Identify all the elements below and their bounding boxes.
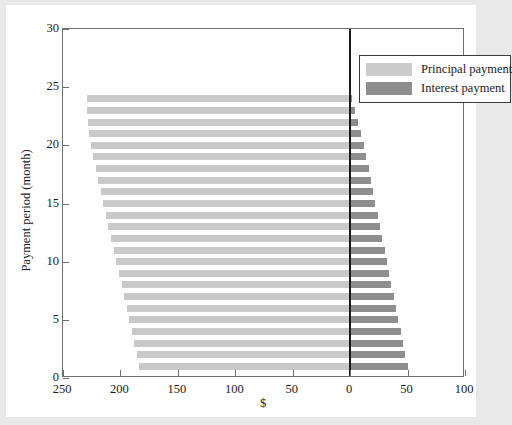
x-tick — [408, 370, 409, 376]
bar-principal — [98, 177, 350, 184]
bar-interest — [350, 119, 358, 126]
x-axis-title: $ — [62, 396, 464, 411]
bar-interest — [350, 247, 384, 254]
x-tick — [293, 370, 294, 376]
legend-label-interest: Interest payment — [421, 81, 505, 96]
x-tick-label: 0 — [346, 382, 352, 397]
y-tick-label: 0 — [53, 370, 59, 385]
legend-swatch-principal — [366, 63, 412, 76]
y-tick-label: 20 — [47, 137, 60, 152]
y-tick-label: 15 — [47, 195, 60, 210]
y-tick — [63, 262, 69, 263]
bar-principal — [87, 107, 350, 114]
y-tick-label: 25 — [47, 79, 60, 94]
bar-interest — [350, 305, 396, 312]
y-tick-label: 5 — [53, 311, 59, 326]
bar-interest — [350, 153, 366, 160]
bar-interest — [350, 142, 364, 149]
bar-principal — [96, 165, 350, 172]
legend-swatch-interest — [366, 82, 412, 95]
x-tick — [63, 370, 64, 376]
legend-item-interest[interactable]: Interest payment — [366, 80, 504, 97]
bar-interest — [350, 212, 378, 219]
bar-interest — [350, 200, 375, 207]
x-tick — [178, 370, 179, 376]
bar-interest — [350, 130, 361, 137]
bar-principal — [101, 188, 350, 195]
bar-principal — [111, 235, 350, 242]
y-tick — [63, 29, 69, 30]
x-tick-label: 50 — [285, 382, 298, 397]
y-tick-label: 10 — [47, 253, 60, 268]
y-tick-label: 30 — [47, 21, 60, 36]
zero-axis-line — [349, 29, 351, 376]
bar-principal — [134, 340, 350, 347]
bar-principal — [122, 281, 351, 288]
bar-interest — [350, 340, 403, 347]
y-tick — [63, 204, 69, 205]
x-tick — [120, 370, 121, 376]
chart-legend[interactable]: Principal payment Interest payment — [359, 55, 511, 103]
bar-principal — [103, 200, 350, 207]
x-tick — [465, 370, 466, 376]
x-tick-label: 200 — [110, 382, 129, 397]
bar-interest — [350, 328, 401, 335]
bar-interest — [350, 363, 407, 370]
bar-principal — [108, 223, 350, 230]
bar-principal — [114, 247, 351, 254]
legend-label-principal: Principal payment — [421, 62, 512, 77]
x-tick-label: 100 — [225, 382, 244, 397]
bar-principal — [116, 258, 350, 265]
y-tick — [63, 378, 69, 379]
bar-principal — [124, 293, 350, 300]
bar-interest — [350, 223, 380, 230]
bar-interest — [350, 188, 373, 195]
bar-interest — [350, 281, 391, 288]
bar-principal — [137, 351, 351, 358]
bar-interest — [350, 165, 368, 172]
bar-principal — [132, 328, 350, 335]
bar-principal — [93, 153, 350, 160]
y-tick — [63, 145, 69, 146]
x-tick — [235, 370, 236, 376]
bar-principal — [88, 119, 350, 126]
bar-interest — [350, 235, 382, 242]
bar-principal — [91, 142, 350, 149]
x-tick-label: 100 — [455, 382, 474, 397]
x-tick-label: 50 — [400, 382, 413, 397]
bar-principal — [119, 270, 350, 277]
legend-item-principal[interactable]: Principal payment — [366, 61, 504, 78]
bar-principal — [139, 363, 350, 370]
bar-interest — [350, 258, 387, 265]
x-tick-label: 150 — [167, 382, 186, 397]
bar-principal — [129, 316, 350, 323]
y-tick — [63, 87, 69, 88]
bar-interest — [350, 293, 394, 300]
bar-interest — [350, 351, 405, 358]
x-tick — [350, 370, 351, 376]
bar-principal — [87, 95, 351, 102]
plot-area: Principal payment Interest payment — [62, 28, 464, 377]
bar-interest — [350, 177, 371, 184]
bar-interest — [350, 316, 398, 323]
bar-principal — [106, 212, 350, 219]
bar-principal — [127, 305, 350, 312]
bar-principal — [89, 130, 350, 137]
bar-interest — [350, 270, 389, 277]
y-tick — [63, 320, 69, 321]
figure-canvas: Payment period (month) $ Principal payme… — [6, 5, 476, 417]
y-axis-title: Payment period (month) — [19, 111, 34, 311]
